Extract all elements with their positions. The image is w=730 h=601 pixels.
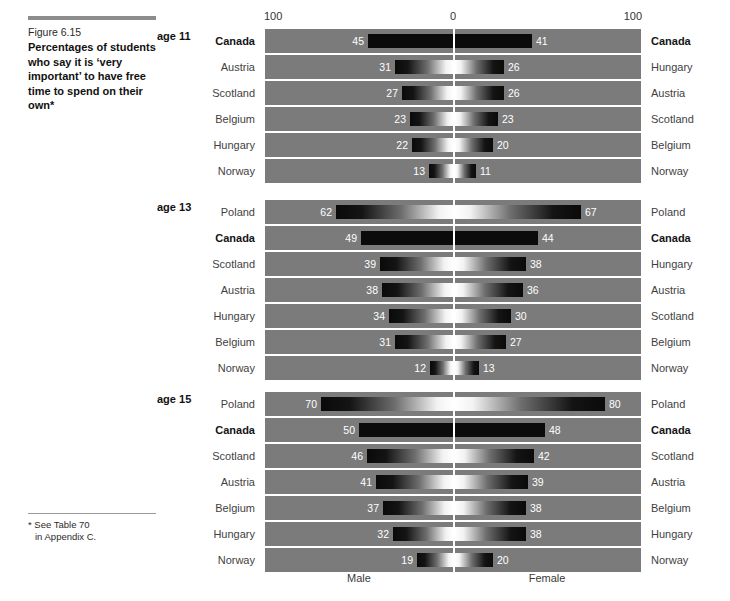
sex-axis-labels: Male Female xyxy=(265,572,641,588)
bar-value-female: 67 xyxy=(585,204,597,220)
bar-female-scotland xyxy=(455,112,498,126)
country-label-male-scotland: Scotland xyxy=(135,81,255,105)
footnote-line-1: * See Table 70 xyxy=(28,519,90,530)
bar-male-norway xyxy=(429,164,453,178)
bar-value-female: 80 xyxy=(609,396,621,412)
country-label-female-scotland: Scotland xyxy=(651,107,730,131)
bar-value-male: 46 xyxy=(351,448,363,464)
country-label-male-poland: Poland xyxy=(135,392,255,416)
bar-male-scotland xyxy=(380,257,453,271)
zero-axis-line xyxy=(453,226,455,250)
country-label-male-belgium: Belgium xyxy=(135,107,255,131)
chart-row: 4139 xyxy=(265,470,641,494)
country-label-male-hungary: Hungary xyxy=(135,522,255,546)
chart-row: 3430 xyxy=(265,304,641,328)
country-label-female-canada: Canada xyxy=(651,29,730,53)
country-label-male-austria: Austria xyxy=(135,470,255,494)
bar-male-hungary xyxy=(389,309,453,323)
zero-axis-line xyxy=(453,200,455,224)
plot-area-age-15: 7080504846424139373832381920 xyxy=(265,392,641,572)
country-label-female-poland: Poland xyxy=(651,392,730,416)
bar-value-male: 37 xyxy=(367,500,379,516)
chart-row: 1213 xyxy=(265,356,641,380)
zero-axis-line xyxy=(453,330,455,354)
male-country-labels-13: PolandCanadaScotlandAustriaHungaryBelgiu… xyxy=(135,200,255,380)
chart-row: 4642 xyxy=(265,444,641,468)
bar-male-canada xyxy=(368,34,453,48)
country-label-female-belgium: Belgium xyxy=(651,133,730,157)
chart-row: 4944 xyxy=(265,226,641,250)
chart-row: 3938 xyxy=(265,252,641,276)
axis-label-male: Male xyxy=(347,572,371,584)
country-label-male-canada: Canada xyxy=(135,29,255,53)
zero-axis-line xyxy=(453,278,455,302)
bar-value-male: 27 xyxy=(386,85,398,101)
bar-female-canada xyxy=(455,34,532,48)
zero-axis-line xyxy=(453,252,455,276)
bar-female-hungary xyxy=(455,257,526,271)
country-label-female-poland: Poland xyxy=(651,200,730,224)
bar-female-poland xyxy=(455,397,605,411)
chart-row: 1920 xyxy=(265,548,641,572)
bar-value-female: 38 xyxy=(530,256,542,272)
bar-value-male: 38 xyxy=(366,282,378,298)
female-country-labels-13: PolandCanadaHungaryAustriaScotlandBelgiu… xyxy=(651,200,730,380)
country-label-male-hungary: Hungary xyxy=(135,133,255,157)
bar-female-belgium xyxy=(455,501,526,515)
axis-tick-right-100: 100 xyxy=(624,10,642,22)
male-country-labels-15: PolandCanadaScotlandAustriaBelgiumHungar… xyxy=(135,392,255,572)
country-label-male-canada: Canada xyxy=(135,226,255,250)
bar-value-female: 41 xyxy=(536,33,548,49)
zero-axis-line xyxy=(453,107,455,131)
bar-value-male: 32 xyxy=(377,526,389,542)
axis-scale-top: 100 0 100 xyxy=(265,10,641,26)
country-label-male-norway: Norway xyxy=(135,548,255,572)
country-label-male-austria: Austria xyxy=(135,278,255,302)
bar-female-scotland xyxy=(455,449,534,463)
bar-female-poland xyxy=(455,205,581,219)
country-label-male-poland: Poland xyxy=(135,200,255,224)
bar-value-male: 45 xyxy=(352,33,364,49)
bar-value-male: 39 xyxy=(364,256,376,272)
bar-value-female: 20 xyxy=(497,137,509,153)
bar-value-male: 12 xyxy=(414,360,426,376)
bar-male-scotland xyxy=(402,86,453,100)
chart-row: 4541 xyxy=(265,29,641,53)
axis-tick-zero: 0 xyxy=(450,10,456,22)
bar-value-female: 26 xyxy=(508,59,520,75)
bar-male-hungary xyxy=(393,527,453,541)
bar-value-male: 34 xyxy=(373,308,385,324)
bar-value-female: 48 xyxy=(549,422,561,438)
caption-rule xyxy=(28,16,156,20)
zero-axis-line xyxy=(453,548,455,572)
country-label-male-scotland: Scotland xyxy=(135,444,255,468)
bar-value-male: 62 xyxy=(320,204,332,220)
country-label-male-belgium: Belgium xyxy=(135,496,255,520)
bar-value-male: 50 xyxy=(343,422,355,438)
country-label-female-belgium: Belgium xyxy=(651,330,730,354)
country-label-female-scotland: Scotland xyxy=(651,444,730,468)
bar-value-female: 13 xyxy=(483,360,495,376)
bar-male-canada xyxy=(359,423,453,437)
chart-row: 2220 xyxy=(265,133,641,157)
bar-male-belgium xyxy=(383,501,453,515)
country-label-male-austria: Austria xyxy=(135,55,255,79)
zero-axis-line xyxy=(453,522,455,546)
country-label-female-norway: Norway xyxy=(651,356,730,380)
bar-female-austria xyxy=(455,475,528,489)
zero-axis-line xyxy=(453,444,455,468)
country-label-female-austria: Austria xyxy=(651,470,730,494)
bar-value-female: 39 xyxy=(532,474,544,490)
bar-value-female: 38 xyxy=(530,526,542,542)
bar-value-female: 27 xyxy=(510,334,522,350)
bar-value-male: 41 xyxy=(360,474,372,490)
bar-value-male: 49 xyxy=(345,230,357,246)
country-label-female-norway: Norway xyxy=(651,159,730,183)
bar-female-canada xyxy=(455,423,545,437)
bar-female-norway xyxy=(455,164,476,178)
zero-axis-line xyxy=(453,81,455,105)
bar-value-female: 26 xyxy=(508,85,520,101)
country-label-female-canada: Canada xyxy=(651,226,730,250)
bar-female-scotland xyxy=(455,309,511,323)
chart-row: 3738 xyxy=(265,496,641,520)
